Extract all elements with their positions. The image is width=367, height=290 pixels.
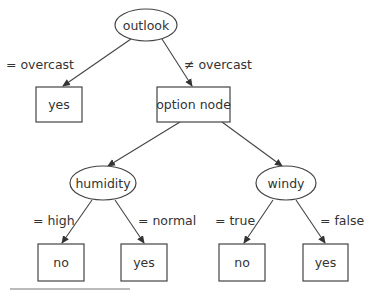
edge-label-high: = high [33,213,75,228]
node-yes-normal-label: yes [133,255,155,270]
node-no-true-label: no [234,255,250,270]
node-no-high: no [38,244,84,281]
node-no-high-label: no [53,255,69,270]
node-outlook-label: outlook [123,18,170,33]
node-yes-overcast-label: yes [48,97,70,112]
node-humidity-label: humidity [75,176,131,191]
node-yes-overcast: yes [36,87,82,122]
edge-label-overcast: = overcast [6,57,74,72]
node-humidity: humidity [70,166,136,200]
edge-to-windy [222,122,282,166]
edge-to-humidity [108,122,180,166]
node-yes-normal: yes [121,244,167,281]
node-option: option node [156,87,231,122]
decision-tree-diagram: = overcast ≠ overcast = high = normal = … [0,0,367,290]
edge-label-not-overcast: ≠ overcast [184,57,252,72]
node-no-true: no [219,244,265,281]
node-yes-false: yes [303,244,348,281]
node-windy: windy [256,166,316,200]
edge-label-normal: = normal [138,213,196,228]
node-outlook: outlook [115,9,177,41]
edge-label-true: = true [215,213,255,228]
edge-label-false: = false [320,213,364,228]
node-yes-false-label: yes [315,255,337,270]
node-windy-label: windy [268,176,306,191]
node-option-label: option node [156,97,231,112]
